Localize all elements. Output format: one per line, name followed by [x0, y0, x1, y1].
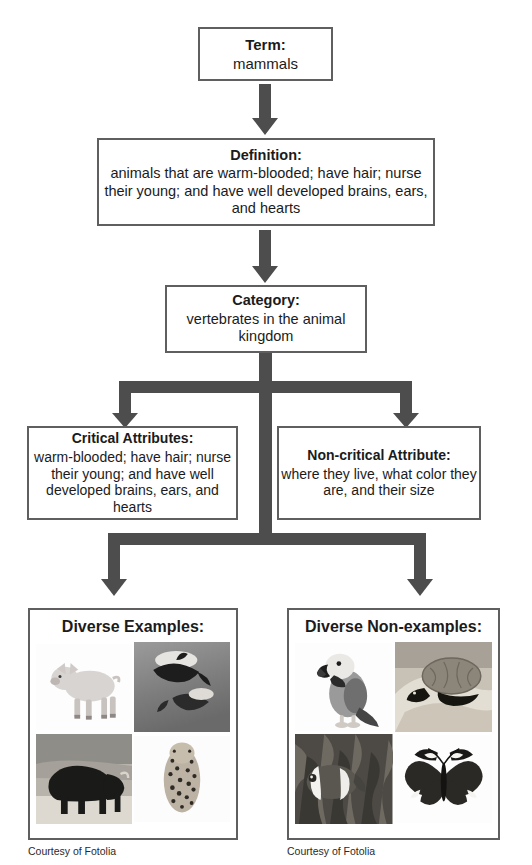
pig-photo — [36, 642, 132, 732]
cheetah-photo — [134, 734, 230, 824]
panel-diverse-examples: Diverse Examples: — [28, 608, 238, 840]
node-category-body: vertebrates in the animal kingdom — [167, 311, 365, 346]
arrow-term-to-definition — [251, 84, 279, 136]
dolphins-photo — [134, 642, 230, 732]
bison-photo — [36, 734, 132, 824]
node-critical-attributes: Critical Attributes: warm-blooded; have … — [27, 426, 238, 520]
arrow-definition-to-category — [251, 230, 279, 284]
node-category: Category: vertebrates in the animal king… — [165, 285, 367, 353]
photo-grid-nonexamples — [295, 642, 492, 824]
bracket-category-to-attributes — [20, 353, 512, 428]
turtle-photo — [395, 642, 493, 732]
node-critical-attributes-body: warm-blooded; have hair; nurse their you… — [29, 449, 236, 516]
panel-diverse-nonexamples: Diverse Non-examples: — [287, 608, 500, 840]
node-term-title: Term: — [245, 36, 286, 54]
diagram-canvas: Term: mammals Definition: animals that a… — [0, 0, 532, 865]
node-term-body: mammals — [233, 55, 298, 73]
node-category-title: Category: — [232, 292, 300, 309]
parrot-photo — [295, 642, 393, 732]
caption-nonexamples: Courtesy of Fotolia — [287, 845, 375, 857]
photo-grid-examples — [36, 642, 230, 824]
node-noncritical-attribute-body: where they live, what color they are, an… — [279, 466, 479, 500]
node-noncritical-attribute-title: Non-critical Attribute: — [307, 447, 450, 464]
panel-diverse-examples-title: Diverse Examples: — [36, 618, 230, 636]
node-definition: Definition: animals that are warm-bloode… — [97, 138, 435, 226]
panel-diverse-nonexamples-title: Diverse Non-examples: — [295, 618, 492, 636]
node-definition-body: animals that are warm-blooded; have hair… — [99, 165, 433, 217]
caption-examples: Courtesy of Fotolia — [28, 845, 116, 857]
node-definition-title: Definition: — [230, 147, 302, 164]
node-term: Term: mammals — [198, 27, 333, 81]
clownfish-photo — [295, 734, 393, 824]
node-critical-attributes-title: Critical Attributes: — [72, 430, 194, 447]
node-noncritical-attribute: Non-critical Attribute: where they live,… — [277, 426, 481, 520]
butterfly-photo — [395, 734, 493, 824]
